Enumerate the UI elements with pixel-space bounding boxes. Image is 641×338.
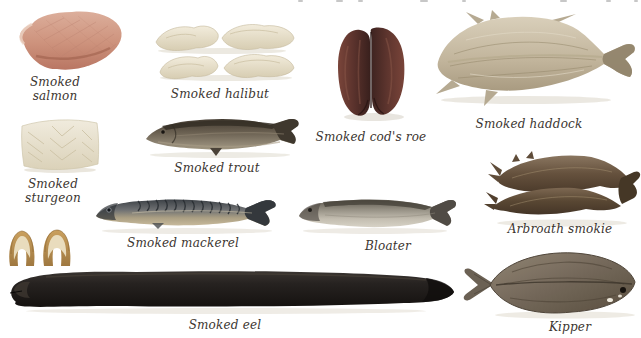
bloater-photo <box>295 193 457 235</box>
smoked-sturgeon-photo <box>14 114 104 174</box>
arbroath-smokie-caption: Arbroath smokie <box>480 222 640 236</box>
smoked-sturgeon-caption: Smoked sturgeon <box>22 177 84 205</box>
smoked-trout-caption: Smoked trout <box>147 161 287 175</box>
text-remnant-mark <box>462 0 466 2</box>
text-remnant-mark <box>298 0 303 2</box>
text-remnant-mark <box>336 0 343 2</box>
kipper-caption: Kipper <box>510 320 630 334</box>
text-remnant-mark <box>634 0 638 2</box>
bloater-caption: Bloater <box>318 239 458 253</box>
smoked-salmon-caption: Smoked salmon <box>24 75 86 103</box>
smoked-salmon-photo <box>6 6 136 78</box>
smoked-eel-caption: Smoked eel <box>165 318 285 332</box>
smoked-cods-roe-photo <box>330 20 412 122</box>
smoked-mackerel-photo <box>92 193 284 235</box>
smoked-cods-roe-caption: Smoked cod's roe <box>296 130 446 144</box>
text-remnant-mark <box>420 0 428 2</box>
text-remnant-mark <box>606 0 611 2</box>
kipper-photo <box>460 248 641 320</box>
smoked-halibut-photo <box>150 14 302 82</box>
smoked-haddock-caption: Smoked haddock <box>449 117 609 131</box>
smoked-haddock-photo <box>426 10 640 112</box>
arbroath-smokie-photo <box>482 148 641 228</box>
smoked-halibut-caption: Smoked halibut <box>150 87 290 101</box>
smoked-mackerel-caption: Smoked mackerel <box>103 236 263 250</box>
text-remnant-mark <box>358 0 363 2</box>
smoked-fish-plate: Smoked salmon Smoked halibut <box>0 0 641 338</box>
smoked-trout-photo <box>140 112 304 160</box>
text-remnant-mark <box>560 0 567 2</box>
smoked-eel-photo <box>6 260 458 316</box>
